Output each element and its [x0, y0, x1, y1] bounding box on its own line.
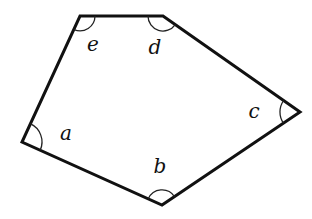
angle-label-e: e — [87, 32, 99, 56]
angle-label-a: a — [60, 121, 72, 145]
angle-arc-c — [280, 101, 284, 124]
angle-label-d: d — [149, 35, 162, 59]
angle-label-b: b — [154, 154, 167, 178]
angle-label-c: c — [248, 99, 259, 123]
pentagon-diagram: a b c d e — [0, 0, 312, 219]
